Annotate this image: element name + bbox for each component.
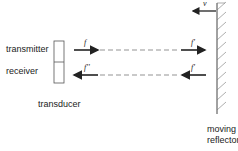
transducer-box: [54, 41, 64, 83]
f-reflected-out-symbol: f': [191, 63, 195, 72]
receiver-label: receiver: [6, 66, 38, 76]
transmitter-label: transmitter: [6, 44, 49, 54]
moving-label: moving: [207, 124, 236, 134]
reflector-label: reflector: [207, 135, 238, 145]
velocity-symbol: v: [203, 0, 207, 8]
reflector-wall: [217, 2, 226, 114]
f-emitted-symbol: f: [84, 38, 86, 47]
f-received-symbol: f'': [84, 63, 90, 72]
transducer-label: transducer: [38, 99, 81, 109]
f-reflected-in-symbol: f': [191, 38, 195, 47]
